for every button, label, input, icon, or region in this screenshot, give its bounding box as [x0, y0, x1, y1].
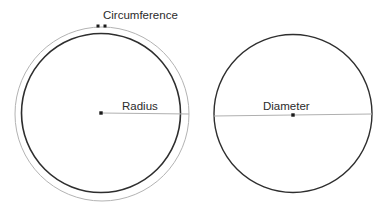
right-figure-group: Diameter: [214, 35, 372, 193]
circumference-marker-right-icon: [104, 25, 107, 28]
diameter-label: Diameter: [263, 100, 310, 112]
circumference-label: Circumference: [103, 9, 178, 21]
left-circle-center-dot: [99, 111, 102, 114]
circle-geometry-diagram: Circumference Radius Diameter: [0, 0, 390, 217]
radius-leader-line: [101, 113, 189, 114]
left-figure-group: Circumference Radius: [15, 9, 189, 201]
right-circle-center-dot: [291, 113, 294, 116]
circumference-marker-left-icon: [97, 25, 100, 28]
diagram-canvas: Circumference Radius Diameter: [0, 0, 390, 217]
radius-label: Radius: [122, 100, 158, 112]
